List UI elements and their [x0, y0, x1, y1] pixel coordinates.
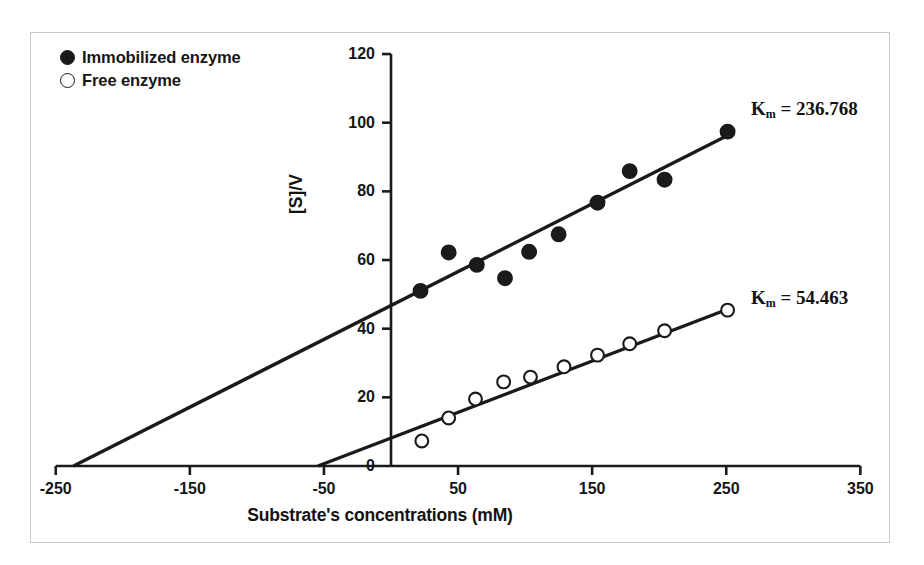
y-tick-label: 100	[325, 114, 375, 132]
x-tick-label: -150	[174, 480, 206, 498]
x-axis-title: Substrate's concentrations (mM)	[0, 505, 760, 526]
data-point-immobilized	[590, 195, 604, 209]
data-point-free	[524, 371, 537, 384]
chart-legend: Immobilized enzyme Free enzyme	[60, 48, 241, 90]
km-subscript-immobilized: m	[766, 107, 776, 121]
legend-item-free: Free enzyme	[60, 71, 241, 90]
y-tick-label: 40	[325, 320, 375, 338]
x-tick-label: -250	[40, 480, 72, 498]
y-tick-label: 60	[325, 251, 375, 269]
fit-line-layer	[73, 135, 728, 466]
y-tick-label: 120	[325, 45, 375, 63]
data-point-free	[591, 349, 604, 362]
km-annotation-free: Km = 54.463	[751, 287, 848, 309]
data-point-free	[469, 393, 482, 406]
km-annotation-immobilized: Km = 236.768	[751, 98, 858, 120]
km-value-free: = 54.463	[776, 287, 849, 308]
x-tick-label: 350	[847, 480, 874, 498]
km-subscript-free: m	[766, 296, 776, 310]
data-point-free	[623, 337, 636, 350]
data-point-immobilized	[622, 164, 636, 178]
fit-line-immobilized	[73, 135, 728, 466]
data-points-layer	[413, 124, 734, 447]
y-tick-label: 0	[325, 457, 375, 475]
data-point-immobilized	[551, 227, 565, 241]
data-point-immobilized	[720, 124, 734, 138]
y-axis-title: [S]/V	[286, 174, 307, 214]
data-point-immobilized	[657, 172, 671, 186]
data-point-immobilized	[470, 258, 484, 272]
x-tick-label: 150	[579, 480, 606, 498]
figure-root: Immobilized enzyme Free enzyme -250-150-…	[0, 0, 924, 565]
data-point-free	[721, 304, 734, 317]
data-point-free	[658, 324, 671, 337]
data-point-immobilized	[498, 271, 512, 285]
legend-item-immobilized: Immobilized enzyme	[60, 48, 241, 67]
x-tick-label: 250	[713, 480, 740, 498]
data-point-free	[497, 375, 510, 388]
data-point-free	[415, 435, 428, 448]
data-point-immobilized	[413, 284, 427, 298]
km-symbol-immobilized: K	[751, 98, 766, 119]
open-circle-icon	[60, 73, 75, 88]
filled-circle-icon	[60, 50, 75, 65]
x-tick-label: -50	[312, 480, 335, 498]
legend-label-free: Free enzyme	[82, 71, 181, 90]
km-symbol-free: K	[751, 287, 766, 308]
data-point-immobilized	[522, 245, 536, 259]
km-value-immobilized: = 236.768	[776, 98, 858, 119]
data-point-free	[442, 412, 455, 425]
legend-label-immobilized: Immobilized enzyme	[82, 48, 241, 67]
y-tick-label: 20	[325, 388, 375, 406]
y-tick-label: 80	[325, 182, 375, 200]
data-point-immobilized	[441, 245, 455, 259]
data-point-free	[558, 360, 571, 373]
x-tick-label: 50	[449, 480, 467, 498]
